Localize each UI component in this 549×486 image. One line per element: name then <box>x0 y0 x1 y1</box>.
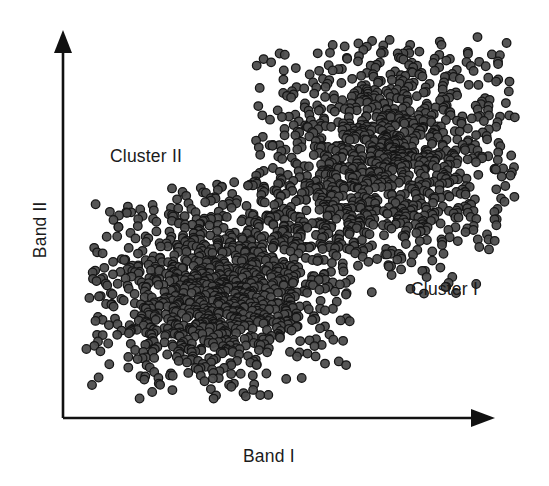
data-points-layer <box>82 33 519 403</box>
x-axis-arrowhead <box>471 409 495 427</box>
scatter-markers <box>82 33 519 403</box>
cluster-ii-label: Cluster II <box>110 148 182 166</box>
plot-canvas <box>0 0 549 486</box>
cluster-i-label: Cluster I <box>411 281 478 299</box>
y-axis-arrowhead <box>54 30 72 53</box>
scatter-plot-figure: Band II Band I Cluster II Cluster I <box>0 0 549 486</box>
x-axis-label: Band I <box>243 448 295 466</box>
y-axis-label: Band II <box>32 201 50 258</box>
